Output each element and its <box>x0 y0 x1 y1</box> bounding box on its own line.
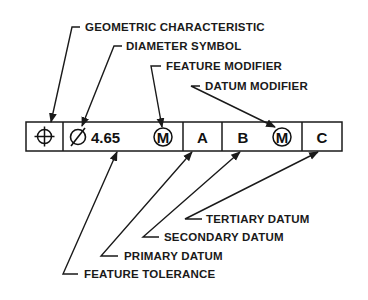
label-feature-tolerance: FEATURE TOLERANCE <box>84 268 216 280</box>
control-frame <box>26 122 342 151</box>
primary-datum-text: A <box>197 129 208 146</box>
label-secondary-datum: SECONDARY DATUM <box>164 231 284 243</box>
label-feature-modifier: FEATURE MODIFIER <box>166 60 283 72</box>
datum-modifier-text: M <box>276 129 289 146</box>
feature-modifier-text: M <box>157 129 170 146</box>
leader-diameter-symbol <box>82 46 122 126</box>
label-tertiary-datum: TERTIARY DATUM <box>206 213 310 225</box>
label-primary-datum: PRIMARY DATUM <box>124 250 223 262</box>
diameter-icon <box>71 128 86 146</box>
secondary-datum-text: B <box>238 129 249 146</box>
leader-tertiary-datum <box>185 152 318 219</box>
position-icon <box>35 127 55 147</box>
label-geometric-characteristic: GEOMETRIC CHARACTERISTIC <box>85 21 265 33</box>
tertiary-datum-text: C <box>317 129 328 146</box>
leader-geometric-characteristic <box>51 27 80 122</box>
feature-control-frame-diagram: 4.65 M A B M C GEOMETRIC CHARACTERISTIC … <box>0 0 368 300</box>
leader-datum-modifier <box>191 86 275 127</box>
leader-feature-modifier <box>151 66 162 127</box>
label-datum-modifier: DATUM MODIFIER <box>205 80 308 92</box>
label-diameter-symbol: DIAMETER SYMBOL <box>126 40 241 52</box>
tolerance-value: 4.65 <box>91 129 120 146</box>
datum-modifier-icon: M <box>273 128 291 146</box>
feature-modifier-icon: M <box>154 128 172 146</box>
